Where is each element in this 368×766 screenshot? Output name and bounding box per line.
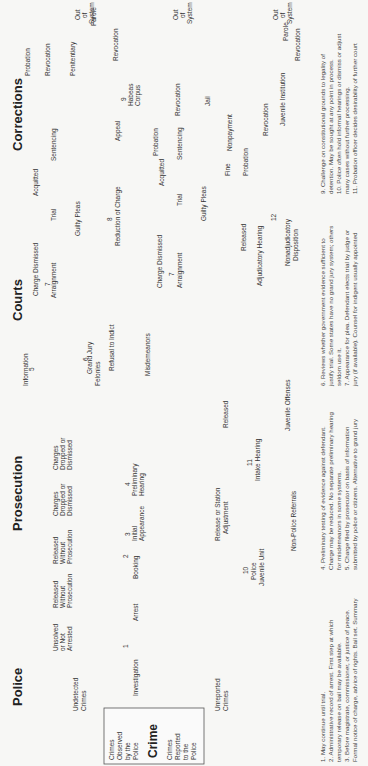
diagram-label: Probation bbox=[24, 48, 31, 76]
section-corrections: Corrections bbox=[10, 78, 25, 151]
diagram-label: System bbox=[186, 2, 194, 24]
diagram-label: Penitentiary bbox=[69, 41, 77, 76]
diagram-label: jury (if available). Counsel for indigen… bbox=[351, 232, 358, 387]
diagram-label: 5. Charge filed by prosecutor on basis o… bbox=[343, 426, 350, 570]
diagram-label: Out bbox=[272, 9, 279, 20]
diagram-label: 3 bbox=[124, 532, 131, 536]
diagram-label: 2. Administrative record of arrest. Firs… bbox=[327, 619, 334, 762]
diagram-label: Information bbox=[22, 353, 29, 386]
diagram-label: Unreported bbox=[214, 678, 222, 711]
diagram-label: Guilty Pleas bbox=[200, 186, 208, 221]
diagram-label: Trial bbox=[50, 208, 57, 221]
diagram-label: Crimes bbox=[80, 690, 87, 711]
diagram-label: Observed bbox=[116, 731, 123, 760]
diagram-label: Arraignment bbox=[176, 252, 184, 288]
diagram-label: Initial bbox=[131, 525, 138, 541]
diagram-label: Revocation bbox=[294, 28, 301, 61]
diagram-label: to the bbox=[182, 743, 189, 760]
section-courts: Courts bbox=[10, 279, 25, 321]
diagram-label: 10 bbox=[242, 566, 249, 574]
crime-box: Crimes Observed by the Police Crime Crim… bbox=[104, 708, 204, 764]
diagram-label: Fine bbox=[224, 163, 231, 176]
diagram-label: 1. May continue until trial. bbox=[319, 692, 326, 762]
criminal-justice-flowchart: Police Prosecution Courts Corrections Cr… bbox=[0, 0, 368, 766]
diagram-label: Prosecution bbox=[66, 529, 73, 564]
diagram-label: Nonadjudicatory bbox=[284, 218, 292, 266]
diagram-label: Misdemeanors bbox=[144, 333, 151, 376]
diagram-label: Acquitted bbox=[32, 169, 40, 196]
section-police: Police bbox=[10, 668, 25, 706]
diagram-label: Crimes bbox=[166, 739, 173, 760]
diagram-label: Habeas bbox=[127, 83, 134, 106]
diagram-label: Out bbox=[74, 9, 81, 20]
diagram-label: submitted by police or citizens. Alterna… bbox=[351, 418, 358, 570]
diagram-label: many cases without further processing. bbox=[343, 86, 350, 194]
diagram-label: Formal notice of charge, advice of right… bbox=[351, 597, 358, 762]
diagram-label: Disposition bbox=[292, 229, 300, 261]
diagram-label: 9 bbox=[120, 97, 127, 101]
diagram-label: Released bbox=[52, 536, 59, 564]
diagram-label: 7. Appearance for plea. Defendant elects… bbox=[343, 230, 350, 386]
diagram-label: Prosecution bbox=[66, 573, 73, 608]
diagram-label: Released bbox=[240, 223, 247, 251]
diagram-label: Arrested bbox=[66, 626, 73, 651]
diagram-label: Sentencing bbox=[50, 128, 58, 161]
diagram-label: justify trial. Some states have no grand… bbox=[327, 226, 334, 387]
diagram-label: Charge Dismissed bbox=[32, 243, 40, 296]
diagram-label: Reduction of Charge bbox=[114, 186, 122, 246]
diagram-label: 6 bbox=[82, 357, 89, 361]
diagram-label: 11 bbox=[246, 459, 253, 466]
diagram-label: Adjustment bbox=[222, 501, 230, 534]
diagram-label: Intake Hearing bbox=[254, 438, 262, 481]
diagram-label: Charge Dismissed bbox=[156, 235, 164, 288]
diagram-label: 3. Before magistrate, commissioner, or j… bbox=[343, 609, 350, 762]
diagram-label: Corpus bbox=[134, 84, 142, 106]
diagram-label: Probation bbox=[242, 148, 249, 176]
diagram-label: of bbox=[179, 12, 186, 18]
crime-title: Crime bbox=[146, 724, 160, 758]
diagram-label: detention. May be sought at any point in… bbox=[327, 59, 334, 194]
diagram-label: Parole bbox=[282, 22, 289, 41]
diagram-label: Felonies bbox=[94, 361, 101, 386]
diagram-label: Juvenile Unit bbox=[258, 549, 265, 586]
diagram-label: 5 bbox=[28, 367, 35, 371]
diagram-label: by the bbox=[124, 742, 132, 760]
diagram-label: Reported bbox=[174, 733, 182, 760]
diagram-label: System bbox=[88, 2, 96, 24]
diagram-label: 4. Preliminary testing of evidence again… bbox=[319, 426, 326, 570]
diagram-label: of bbox=[279, 12, 286, 18]
diagram-label: Sentencing bbox=[176, 127, 184, 160]
diagram-label: 9. Challenge on constitutional grounds t… bbox=[319, 54, 326, 194]
diagram-label: of bbox=[81, 12, 88, 18]
section-prosecution: Prosecution bbox=[10, 456, 25, 531]
diagram-label: Nonpayment bbox=[226, 114, 234, 151]
diagram-label: Police bbox=[132, 742, 139, 760]
diagram-label: Revocation bbox=[112, 28, 119, 61]
diagram-label: Trial bbox=[176, 193, 183, 206]
diagram-label: or Not bbox=[59, 633, 66, 651]
diagram-label: Investigation bbox=[132, 659, 140, 696]
diagram-label: 10. Police often hold informal hearings … bbox=[335, 33, 342, 194]
diagram-label: 4 bbox=[124, 482, 131, 486]
diagram-label: Without bbox=[59, 586, 66, 608]
diagram-label: Acquitted bbox=[158, 159, 166, 186]
diagram-label: Dismissed bbox=[66, 486, 73, 516]
diagram-label: Undetected bbox=[72, 677, 79, 711]
diagram-label: Released bbox=[222, 400, 229, 428]
diagram-label: Out bbox=[172, 9, 179, 20]
diagram-label: Hearing bbox=[138, 473, 146, 496]
diagram-label: seldom use it. bbox=[335, 348, 342, 386]
diagram-label: Arraignment bbox=[50, 262, 58, 298]
diagram-label: Police bbox=[190, 742, 197, 760]
diagram-label: Unsolved bbox=[52, 624, 59, 651]
diagram-label: Non-Police Referrals bbox=[290, 490, 297, 551]
diagram-label: Police bbox=[250, 562, 257, 580]
diagram-label: Released bbox=[52, 580, 59, 608]
diagram-label: 11. Probation officer decides desirabili… bbox=[351, 43, 358, 194]
diagram-label: Jail bbox=[204, 96, 211, 106]
diagram-label: for misdemeanors in some systems. bbox=[335, 471, 342, 570]
diagram-label: 1 bbox=[122, 644, 129, 648]
diagram-label: Dismissed bbox=[66, 440, 73, 470]
diagram-label: Appearance bbox=[138, 506, 146, 541]
diagram-label: 2 bbox=[122, 554, 129, 558]
